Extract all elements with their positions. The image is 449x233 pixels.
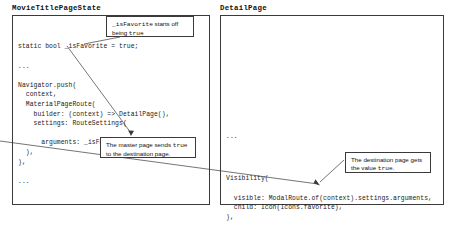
panel-title-detail: DetailPage (220, 4, 267, 12)
callout-favorite-starts: _isFavorite starts off being true (106, 16, 194, 37)
code-block-master: static bool _isFavorite = true; ... Navi… (18, 42, 170, 186)
callout-gets-code: true (378, 165, 393, 172)
callout-master-sends: The master page sends true to the destin… (100, 137, 196, 158)
callout-sends-text-2: to the destination page. (106, 150, 170, 157)
callout-destination-gets: The destination page gets the value true… (345, 152, 431, 173)
code-block-detail-visibility: Visibility( visible: ModalRoute.of(conte… (226, 174, 432, 222)
panel-title-master: MovieTitlePageState (12, 4, 101, 12)
code-block-detail-ellipsis: ... (226, 132, 238, 142)
callout-sends-code: true (173, 142, 188, 149)
diagram-canvas: MovieTitlePageState DetailPage static bo… (0, 0, 449, 233)
callout-sends-text-1: The master page sends (106, 141, 173, 148)
callout-favorite-code-1: _isFavorite (112, 21, 153, 28)
callout-favorite-code-2: true (129, 30, 144, 37)
callout-gets-text-2: . (393, 164, 395, 171)
